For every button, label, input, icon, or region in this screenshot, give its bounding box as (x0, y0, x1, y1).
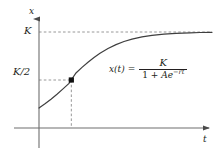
y-axis-label: x (29, 7, 34, 16)
half-capacity-tick-label: K/2 (13, 67, 30, 77)
equation-fraction: K 1 + Ae−rt (139, 58, 187, 80)
denominator-exponent: −rt (173, 68, 184, 76)
logistic-growth-figure: x t K K/2 x(t) = K 1 + Ae−rt (0, 0, 220, 157)
carrying-capacity-tick-label: K (24, 26, 31, 36)
equation-equals-sign: = (128, 65, 136, 74)
inflection-point-marker (69, 77, 74, 82)
equation-left-hand-side: x(t) (109, 65, 125, 74)
equation-numerator: K (156, 58, 171, 69)
logistic-equation-annotation: x(t) = K 1 + Ae−rt (109, 58, 187, 80)
equation-denominator: 1 + Ae−rt (139, 70, 187, 80)
x-axis-label: t (203, 135, 207, 144)
denominator-prefix: 1 + (142, 70, 161, 80)
